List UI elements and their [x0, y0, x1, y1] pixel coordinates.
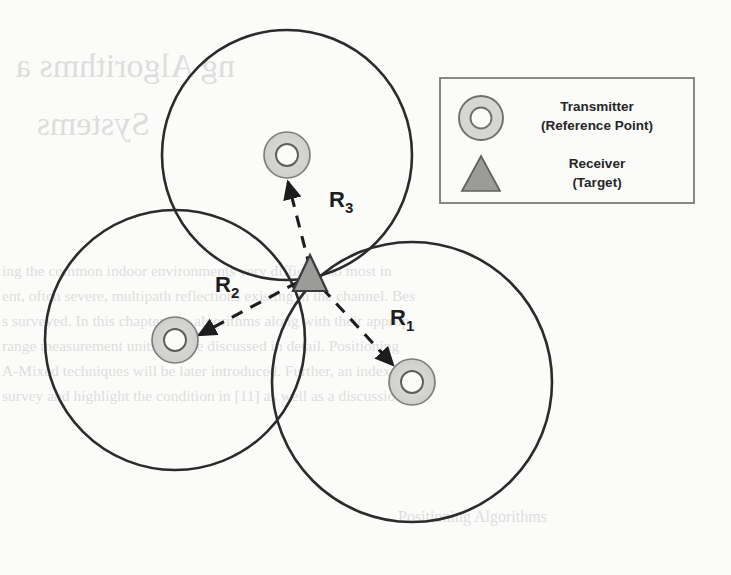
legend-transmitter-line2: (Reference Point) [541, 118, 653, 133]
range-label-2: R2 [215, 272, 239, 301]
legend-transmitter-line1: Transmitter [560, 99, 634, 114]
receiver-target [293, 255, 327, 291]
range-line-3 [288, 182, 310, 268]
diagram-canvas: ng Algorithms a Systems ing the common i… [0, 0, 731, 575]
transmitter-3 [264, 132, 310, 178]
range-label-1: R1 [390, 305, 414, 334]
transmitter-2 [152, 317, 198, 363]
range-labels: R1 R2 R3 [215, 187, 414, 334]
legend-receiver-line2: (Target) [572, 175, 621, 190]
range-label-3: R3 [329, 187, 353, 216]
trilateration-svg: R1 R2 R3 Transmitter (Reference Point) [0, 0, 731, 575]
legend: Transmitter (Reference Point) Receiver (… [440, 78, 694, 203]
transmitters [152, 132, 435, 405]
transmitter-1 [389, 359, 435, 405]
legend-receiver-line1: Receiver [569, 156, 626, 171]
legend-transmitter-icon [459, 96, 503, 140]
range-line-1 [322, 288, 393, 365]
